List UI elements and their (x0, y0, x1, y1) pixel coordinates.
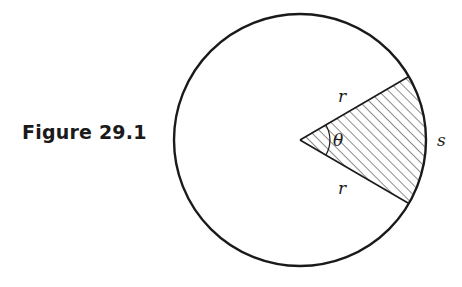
label-radius-bottom: r (338, 178, 347, 198)
label-radius-top: r (338, 86, 347, 106)
label-arc-length: s (437, 130, 446, 150)
circle-sector-diagram: r θ r s (0, 0, 462, 287)
shaded-sector (300, 77, 425, 203)
label-angle-theta: θ (333, 130, 343, 150)
